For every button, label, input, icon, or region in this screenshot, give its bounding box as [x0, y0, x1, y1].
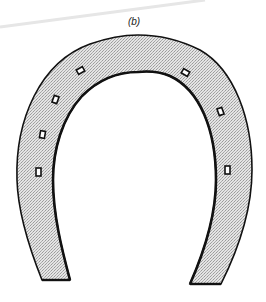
nail-hole-icon — [225, 166, 230, 174]
figure-label: (b) — [124, 15, 144, 29]
scan-streak — [0, 0, 205, 27]
inner-edge-shadow — [53, 71, 216, 284]
horseshoe-diagram — [0, 0, 266, 302]
nail-hole-icon — [36, 168, 41, 176]
nail-hole-icon — [39, 131, 45, 139]
figure-canvas: (b) — [0, 0, 266, 302]
